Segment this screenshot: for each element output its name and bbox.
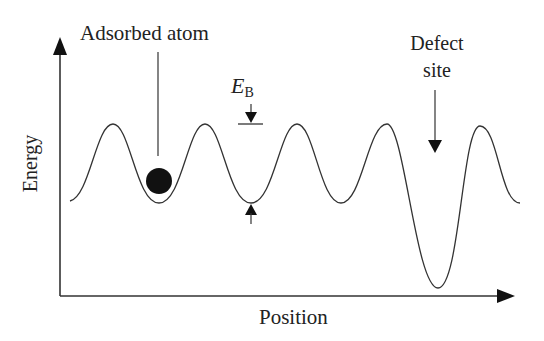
defect-arrow-icon	[428, 140, 442, 153]
energy-curve	[70, 124, 520, 288]
y-axis-label: Energy	[19, 124, 42, 204]
y-axis-arrow-icon	[53, 37, 67, 55]
adsorbed-atom-label: Adsorbed atom	[80, 22, 209, 44]
defect-site-label: Defect site	[404, 30, 470, 84]
x-axis-label: Position	[259, 306, 328, 328]
defect-label-line2: site	[404, 57, 470, 84]
x-axis-arrow-icon	[497, 289, 515, 303]
defect-label-line1: Defect	[404, 30, 470, 57]
barrier-symbol: E	[231, 73, 244, 98]
barrier-energy-label: EB	[231, 73, 254, 101]
barrier-subscript: B	[244, 85, 253, 100]
barrier-top-arrow-icon	[245, 112, 257, 123]
adsorbed-atom	[146, 168, 172, 194]
